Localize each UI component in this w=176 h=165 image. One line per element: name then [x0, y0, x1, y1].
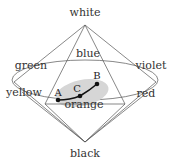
label-point-c: C — [73, 83, 81, 94]
label-point-a: A — [53, 87, 62, 98]
label-orange: orange — [64, 98, 103, 111]
label-red: red — [137, 87, 156, 100]
label-green: green — [15, 59, 47, 72]
label-point-b: B — [93, 70, 100, 81]
point-b-marker — [95, 82, 100, 87]
label-yellow: yellow — [5, 86, 42, 99]
label-blue: blue — [76, 47, 100, 60]
label-black: black — [70, 147, 100, 160]
point-a-marker — [56, 98, 61, 103]
color-solid-diagram: white black blue green violet yellow red… — [0, 0, 176, 165]
edge-white-left — [14, 25, 85, 82]
label-white: white — [70, 6, 101, 19]
label-violet: violet — [135, 59, 167, 72]
